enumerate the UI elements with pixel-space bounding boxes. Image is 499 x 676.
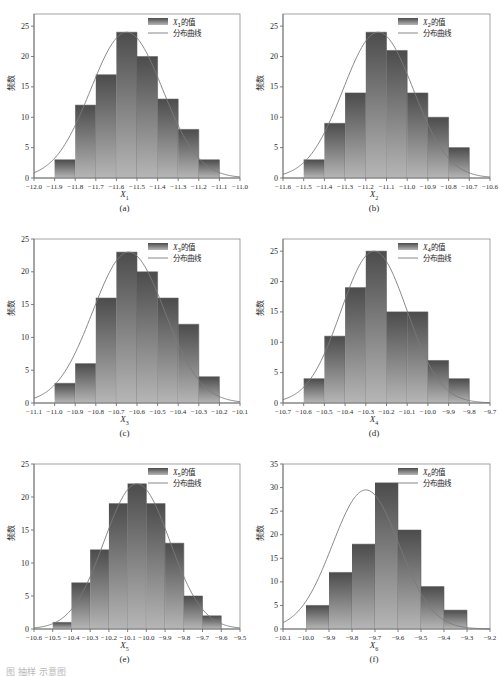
panel-caption: (f) [249,654,499,664]
x-axis-label: X1 [0,189,249,201]
panel-caption: (c) [0,428,249,438]
legend-bar-swatch [148,468,168,475]
histogram-bar [329,572,352,629]
legend-bar-swatch [148,18,168,25]
x-axis-label: X2 [249,189,499,201]
legend-bar-swatch [398,468,418,475]
figure-panel-grid: 频数X1(a)0510152025−12.0−11.9−11.8−11.7−11… [0,0,499,676]
histogram-bar [96,75,117,178]
histogram-bar [345,288,366,403]
histogram-bar [444,610,467,629]
legend-curve-label: 分布曲线 [173,28,202,38]
y-axis-tick-label: 10 [21,113,29,122]
chart-panel-b: 频数X2(b)0510152025−11.6−11.5−11.4−11.3−11… [249,0,499,225]
y-axis-tick-label: 5 [274,601,278,610]
x-axis-label-subscript: 5 [126,646,129,652]
legend-bar-swatch [398,18,418,25]
y-axis-tick-label: 15 [21,82,29,91]
histogram-bar [165,543,184,629]
histogram-bar [116,252,137,403]
legend-curve-label: 分布曲线 [423,28,452,38]
legend-bar-label: X2的值 [422,17,446,28]
chart-panel-e: 频数X5(e)0510152025−10.6−10.5−10.4−10.3−10… [0,450,249,676]
panel-caption: (d) [249,428,499,438]
histogram-bar [366,32,387,178]
histogram-bar [428,360,449,403]
histogram-bar [146,504,165,629]
histogram-bar [137,57,158,178]
x-axis-label: X5 [0,640,249,652]
x-axis-label-subscript: 3 [126,420,129,426]
y-axis-tick-label: 25 [21,235,29,244]
y-axis-tick-label: 35 [270,460,278,469]
histogram-bar [75,364,96,403]
histogram-bar [128,484,147,629]
y-axis-tick-label: 0 [274,399,278,408]
y-axis-tick-label: 30 [270,483,278,492]
histogram-bar [199,160,220,178]
y-axis-label: 频数 [5,300,16,316]
legend-bar-swatch [148,243,168,250]
histogram-bar [421,587,444,629]
y-axis-label: 频数 [254,75,265,91]
histogram-bar [116,32,137,178]
y-axis-tick-label: 5 [274,143,278,152]
histogram-bar [75,105,96,178]
histogram-bar [375,483,398,629]
chart-panel-a: 频数X1(a)0510152025−12.0−11.9−11.8−11.7−11… [0,0,249,225]
x-axis-label-subscript: 2 [375,195,378,201]
histogram-bar [53,622,72,629]
histogram-bar [184,596,203,629]
legend-curve-label: 分布曲线 [423,253,452,263]
panel-caption: (b) [249,203,499,213]
histogram-bar [387,50,408,178]
y-axis-tick-label: 0 [25,399,29,408]
x-axis-label-subscript: 1 [126,195,129,201]
histogram-bar [304,160,325,178]
chart-panel-c: 频数X3(c)0510152025−11.1−11.0−10.9−10.8−10… [0,225,249,450]
histogram-bar [90,550,109,629]
x-axis-label-subscript: 4 [375,420,378,426]
y-axis-tick-label: 10 [270,113,278,122]
y-axis-tick-label: 15 [21,300,29,309]
histogram-bar [387,312,408,403]
histogram-bar [306,605,329,629]
y-axis-label: 频数 [254,300,265,316]
y-axis-tick-label: 0 [25,625,29,634]
x-axis-label: X4 [249,414,499,426]
legend-bar-label: X5的值 [172,467,196,478]
histogram-bar [55,383,76,403]
legend-bar-label: X6的值 [422,467,446,478]
histogram-bar [137,272,158,403]
y-axis-tick-label: 5 [25,366,29,375]
legend-bar-label: X1的值 [172,17,196,28]
histogram-bar [449,379,470,403]
y-axis-tick-label: 15 [21,526,29,535]
y-axis-tick-label: 20 [21,52,29,61]
legend-bar-label: X4的值 [422,242,446,253]
histogram-bar [96,298,117,403]
histogram-bar [324,123,345,178]
y-axis-label: 频数 [254,525,265,541]
y-axis-tick-label: 0 [274,174,278,183]
y-axis-tick-label: 20 [21,267,29,276]
legend-bar-label: X3的值 [172,242,196,253]
y-axis-tick-label: 5 [274,368,278,377]
y-axis-tick-label: 15 [270,554,278,563]
legend-curve-label: 分布曲线 [173,253,202,263]
chart-panel-d: 频数X4(d)0510152025−10.7−10.6−10.5−10.4−10… [249,225,499,450]
histogram-bar [158,298,179,403]
y-axis-tick-label: 10 [21,333,29,342]
histogram-bar [407,93,428,178]
y-axis-tick-label: 20 [270,52,278,61]
histogram-bar [345,93,366,178]
x-axis-label: X3 [0,414,249,426]
panel-caption: (a) [0,203,249,213]
figure-bottom-caption: 图 抽样 示意图 [0,667,499,676]
histogram-bar [109,504,128,629]
chart-panel-f: 频数X6(f)05101520253035−10.1−10.0−9.9−9.8−… [249,450,499,676]
y-axis-label: 频数 [5,75,16,91]
histogram-bar [398,530,421,629]
histogram-bar [366,251,387,403]
legend-curve-label: 分布曲线 [423,478,452,488]
